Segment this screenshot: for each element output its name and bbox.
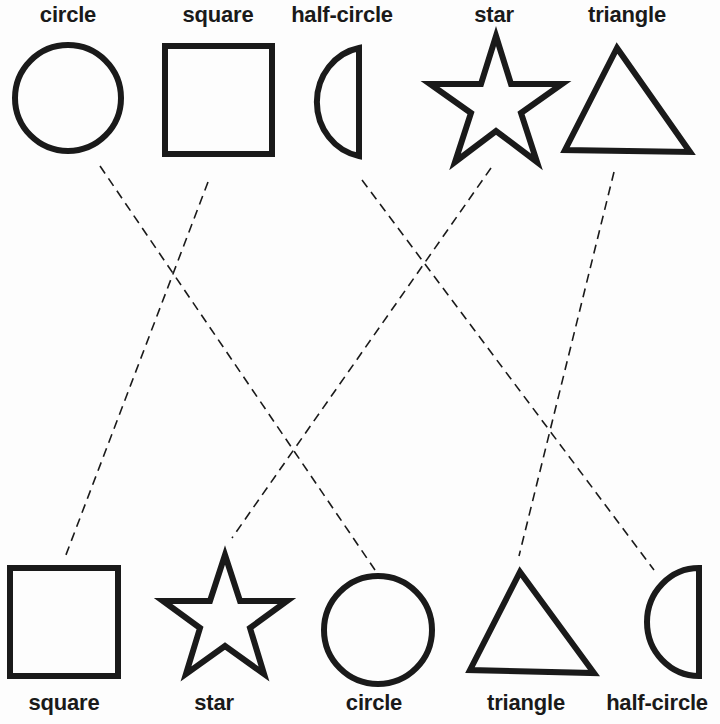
- bottom-circle-icon: [324, 576, 432, 684]
- match-line-square: [64, 182, 208, 560]
- bottom-triangle-icon: [470, 572, 594, 673]
- match-line-half-circle: [362, 180, 654, 570]
- top-half-circle-icon: [317, 48, 359, 156]
- top-triangle-icon: [565, 48, 690, 152]
- match-line-star: [232, 168, 491, 538]
- top-circle-icon: [15, 45, 121, 151]
- bottom-star-icon: [163, 555, 287, 674]
- bottom-square-icon: [10, 568, 118, 676]
- top-star-icon: [430, 36, 562, 162]
- bottom-half-circle-icon: [647, 568, 699, 676]
- match-line-circle: [100, 166, 375, 570]
- top-square-icon: [165, 46, 272, 154]
- shapes-canvas: [0, 0, 720, 724]
- shape-matching-worksheet: circle square half-circle star triangle …: [0, 0, 720, 724]
